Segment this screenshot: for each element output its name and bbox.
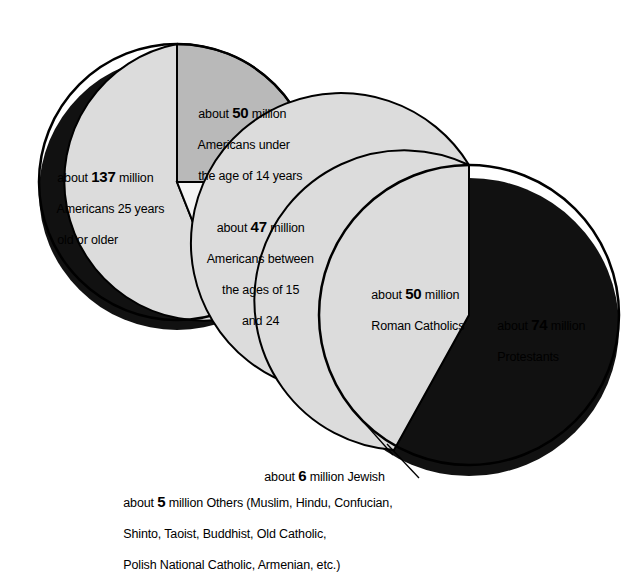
label-roman-catholics-number: 50 — [405, 285, 421, 302]
label-protestants-suffix: million — [548, 319, 586, 333]
label-under-14-line2: Americans under — [198, 138, 290, 152]
label-others: about 5 million Others (Muslim, Hindu, C… — [110, 478, 440, 576]
label-25-plus-number: 137 — [91, 168, 116, 185]
label-roman-catholics-prefix: about — [371, 288, 405, 302]
label-25-plus: about 137 million Americans 25 years old… — [44, 153, 189, 264]
label-others-line3: Polish National Catholic, Armenian, etc.… — [123, 558, 340, 572]
label-15-to-24-line3: the ages of 15 — [222, 283, 299, 297]
label-15-to-24-number: 47 — [251, 218, 267, 235]
label-protestants-number: 74 — [531, 316, 547, 333]
label-15-to-24-prefix: about — [217, 221, 251, 235]
label-25-plus-prefix: about — [57, 171, 91, 185]
label-under-14-prefix: about — [198, 107, 232, 121]
label-roman-catholics-suffix: million — [422, 288, 460, 302]
label-25-plus-line2: Americans 25 years — [57, 202, 165, 216]
label-others-suffix: million Others (Muslim, Hindu, Confucian… — [165, 496, 392, 510]
label-15-to-24-line2: Americans between — [207, 252, 314, 266]
label-25-plus-line3: old or older — [57, 233, 118, 247]
label-15-to-24-line4: and 24 — [242, 314, 279, 328]
label-15-to-24: about 47 million Americans between the a… — [191, 203, 317, 345]
label-25-plus-suffix: million — [116, 171, 154, 185]
label-protestants: about 74 million Protestants — [484, 301, 604, 381]
label-protestants-prefix: about — [497, 319, 531, 333]
label-under-14-suffix: million — [249, 107, 287, 121]
label-under-14: about 50 million Americans under the age… — [185, 89, 320, 200]
label-15-to-24-suffix: million — [267, 221, 305, 235]
label-protestants-line2: Protestants — [497, 350, 559, 364]
label-others-prefix: about — [123, 496, 157, 510]
label-under-14-number: 50 — [232, 104, 248, 121]
label-roman-catholics-line2: Roman Catholics — [371, 319, 464, 333]
label-others-line2: Shinto, Taoist, Buddhist, Old Catholic, — [123, 527, 326, 541]
label-roman-catholics: about 50 million Roman Catholics — [358, 270, 478, 350]
label-under-14-line3: the age of 14 years — [198, 169, 302, 183]
